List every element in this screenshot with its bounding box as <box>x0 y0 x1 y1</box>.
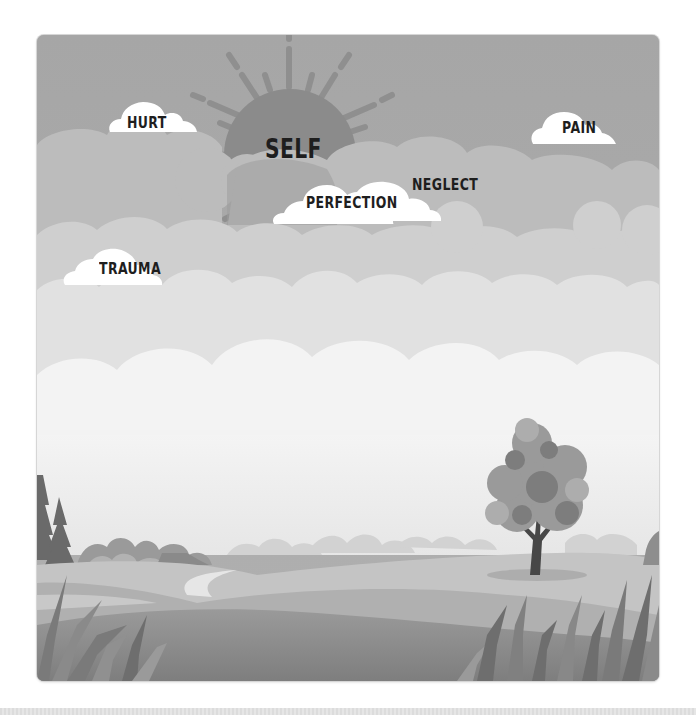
cloud-label-neglect: NEGLECT <box>412 177 478 193</box>
illustration-card: SELF HURT PAIN PERFECTION NEGLECT TRAUMA <box>37 35 659 681</box>
cloud-label-hurt: HURT <box>127 115 167 131</box>
page-bottom-divider <box>0 708 696 715</box>
cloud-label-trauma: TRAUMA <box>99 261 161 277</box>
cloud-label-perfection: PERFECTION <box>306 195 398 211</box>
cloud-label-pain: PAIN <box>562 120 596 136</box>
sun-label-self: SELF <box>265 136 322 162</box>
